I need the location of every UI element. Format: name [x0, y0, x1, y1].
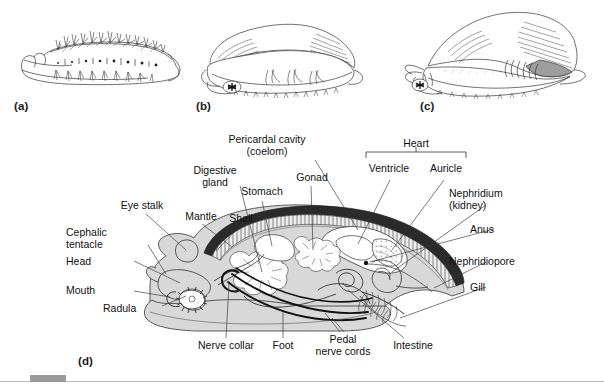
- mollusc-anatomy-figure: (a) (b) (c) (d) Pericardal cavity (coelo…: [0, 0, 604, 386]
- label-coelom: (coelom): [206, 146, 328, 158]
- panel-letter-b: (b): [196, 100, 211, 112]
- label-nerve-cords: nerve cords: [306, 346, 380, 358]
- label-pericardal-cavity: Pericardal cavity: [206, 134, 328, 146]
- label-shell: Shell: [224, 213, 258, 225]
- label-digestive: Digestive: [179, 165, 251, 177]
- label-intestine: Intestine: [382, 340, 444, 352]
- label-mantle: Mantle: [176, 211, 226, 223]
- label-nephridium: Nephridium: [449, 188, 503, 200]
- label-tentacle: tentacle: [66, 239, 103, 251]
- label-radula: Radula: [103, 303, 136, 315]
- page-divider-rule: [0, 381, 604, 382]
- label-ventricle: Ventricle: [358, 163, 420, 175]
- panel-letter-d: (d): [78, 355, 93, 367]
- label-anus: Anus: [470, 224, 494, 236]
- label-gill: Gill: [470, 282, 485, 294]
- label-eye-stalk: Eye stalk: [111, 200, 173, 212]
- page-corner-tab: [30, 375, 66, 382]
- label-nerve-collar: Nerve collar: [178, 340, 274, 352]
- panel-letter-c: (c): [420, 100, 434, 112]
- label-cephalic: Cephalic: [66, 227, 107, 239]
- label-pedal: Pedal: [306, 334, 380, 346]
- panel-a-artwork: [21, 31, 180, 85]
- figure-artwork: [0, 0, 604, 386]
- label-heart: Heart: [386, 138, 446, 150]
- label-nephridiopore: Nephridiopore: [449, 256, 515, 268]
- label-mouth: Mouth: [66, 285, 95, 297]
- panel-letter-a: (a): [14, 100, 28, 112]
- label-kidney: (kidney): [449, 200, 486, 212]
- label-foot: Foot: [263, 340, 303, 352]
- panel-c-artwork: [405, 12, 585, 99]
- label-stomach: Stomach: [231, 186, 293, 198]
- label-auricle: Auricle: [420, 163, 472, 175]
- label-gonad: Gonad: [285, 172, 339, 184]
- label-head: Head: [66, 256, 91, 268]
- panel-b-artwork: [202, 24, 363, 98]
- anus-opening: [364, 261, 368, 265]
